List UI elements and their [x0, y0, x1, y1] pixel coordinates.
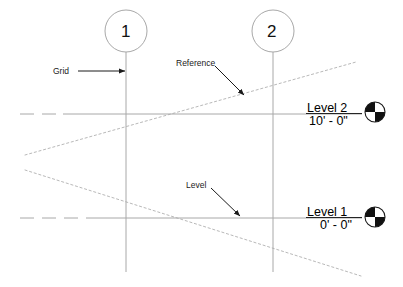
grid-1-group[interactable] [105, 10, 147, 272]
level-annotation-leader [211, 188, 240, 216]
level-head-quadrant-bottom-right [375, 217, 385, 227]
diagram-drawing [0, 0, 403, 287]
level-head-level-1[interactable] [365, 207, 385, 227]
level-head-quadrant-top-left [365, 207, 375, 217]
grid-bubble-label-1[interactable]: 1 [121, 22, 130, 42]
level-elevation-level-2[interactable]: 10' - 0" [309, 114, 348, 128]
level-head-level-2[interactable] [365, 102, 385, 122]
diagram-canvas: 1 2 Grid Reference Level Level 2 10' - 0… [0, 0, 403, 287]
reference-plane-group [25, 62, 361, 276]
annotation-label-grid: Grid [53, 66, 69, 76]
annotation-label-level: Level [186, 180, 206, 190]
level-elevation-level-1[interactable]: 0' - 0" [320, 218, 352, 232]
grid-bubble-label-2[interactable]: 2 [267, 22, 276, 42]
level-name-level-1[interactable]: Level 1 [307, 205, 347, 219]
level-head-quadrant-top-left [365, 102, 375, 112]
level-lines-group [20, 114, 362, 218]
grid-2-group[interactable] [252, 10, 294, 272]
level-name-level-2[interactable]: Level 2 [307, 101, 347, 115]
reference-annotation-leader [215, 66, 244, 95]
annotation-label-reference: Reference [176, 58, 215, 68]
level-head-quadrant-bottom-right [375, 112, 385, 122]
